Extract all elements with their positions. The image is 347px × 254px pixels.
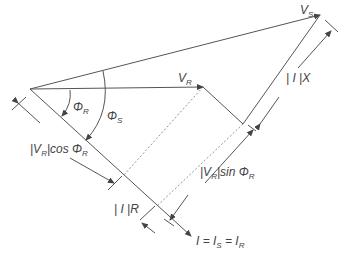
ir-drop-line (203, 87, 243, 124)
dim-tick-ix-top (325, 20, 338, 32)
dim-sin-line-a (170, 195, 188, 220)
label-vs: VS (300, 3, 314, 19)
dim-ix-line-a (260, 97, 279, 124)
dim-tick-sin-top (248, 125, 256, 131)
label-vr: VR (178, 71, 192, 87)
label-current: I = IS = IR (196, 234, 245, 250)
dim-cos-line-b (70, 158, 114, 183)
label-phi-r: ΦR (73, 100, 89, 116)
label-phi-s: ΦS (107, 109, 123, 125)
label-ix: | I |X (286, 71, 311, 85)
dim-ix-line-b (298, 31, 331, 68)
label-ir: | I |R (114, 202, 139, 216)
dim-tick-ir (140, 206, 155, 220)
phi-r-arc (62, 90, 70, 116)
dim-tick-sin-bottom (164, 219, 174, 226)
vr-phasor (30, 87, 203, 89)
dim-cos-line-a (18, 103, 40, 123)
dim-tick-left-bottom (108, 176, 122, 190)
dim-ir-arrow (142, 223, 155, 233)
phasor-diagram: VS VR ΦR ΦS | I |X |VR|cos ΦR | I |R |VR… (0, 0, 347, 254)
phi-s-arc (86, 71, 105, 140)
diagram-canvas: VS VR ΦR ΦS | I |X |VR|cos ΦR | I |R |VR… (0, 0, 347, 254)
label-vr-sin: |VR|sin ΦR (200, 165, 255, 181)
label-vr-cos: |VR|cos ΦR (30, 142, 88, 158)
vs-phasor (30, 15, 320, 89)
projection-dashed-1 (123, 87, 203, 176)
